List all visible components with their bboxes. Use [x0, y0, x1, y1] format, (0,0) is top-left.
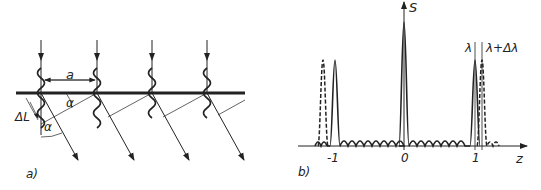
diagram-canvas: a α α ΔL a) S z -1 0 1 λ λ+Δλ b): [0, 0, 541, 190]
y-axis-label: S: [409, 0, 417, 15]
legend-lambda-delta: λ+Δλ: [485, 41, 518, 55]
panel-a: [16, 40, 245, 160]
angle-label-lower: α: [44, 120, 52, 134]
tick-1: 1: [472, 151, 480, 165]
path-diff-label: ΔL: [14, 110, 30, 124]
panel-b-label: b): [298, 165, 310, 179]
angle-label-upper: α: [66, 96, 74, 110]
panel-b-chart: [298, 2, 527, 150]
panel-a-label: a): [26, 167, 38, 181]
tick-minus-1: -1: [327, 151, 339, 165]
tick-0: 0: [401, 151, 409, 165]
legend-lambda: λ: [464, 41, 472, 55]
x-axis-label: z: [515, 151, 524, 166]
spacing-label: a: [66, 67, 74, 82]
